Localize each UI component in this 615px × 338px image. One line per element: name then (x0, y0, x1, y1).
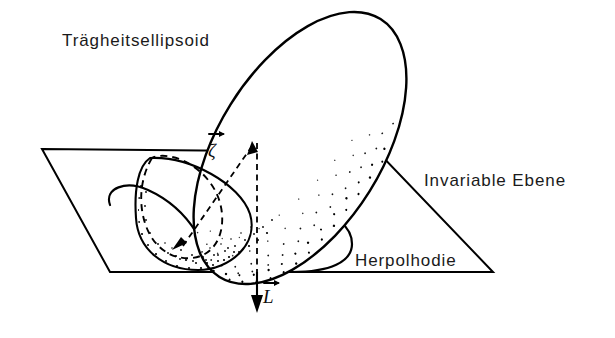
zeta-vector-arrowhead-down (172, 237, 187, 250)
label-herpolhode: Herpolhodie (355, 251, 457, 270)
label-zeta-vector: ζ (208, 140, 217, 161)
label-inertia-ellipsoid: Trägheitsellipsoid (62, 31, 210, 50)
poinsot-construction-figure: Trägheitsellipsoid Invariable Ebene Herp… (0, 0, 615, 338)
figure-canvas: Trägheitsellipsoid Invariable Ebene Herp… (0, 0, 615, 338)
l-vector-arrowhead (251, 295, 263, 313)
label-invariable-plane: Invariable Ebene (424, 171, 566, 190)
label-l-vector: L (262, 286, 274, 307)
